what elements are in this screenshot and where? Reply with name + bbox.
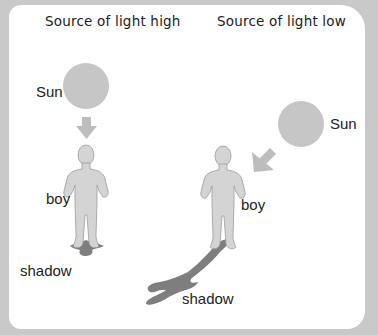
sun-icon (278, 101, 324, 147)
sun-label: Sun (36, 83, 63, 100)
boy-figure (64, 145, 108, 248)
boy-label: boy (46, 190, 70, 207)
shadow-label: shadow (20, 262, 72, 279)
shadow-label: shadow (182, 290, 234, 307)
arrow-diagonal-icon (252, 148, 276, 172)
arrow-down-icon (76, 117, 97, 139)
panel-title-high: Source of light high (45, 13, 181, 29)
boy-label: boy (241, 196, 265, 213)
sun-icon (63, 63, 109, 109)
sun-label: Sun (330, 115, 357, 132)
diagram-illustration (0, 0, 378, 335)
panel-title-low: Source of light low (217, 13, 346, 29)
boy-figure (201, 146, 245, 249)
